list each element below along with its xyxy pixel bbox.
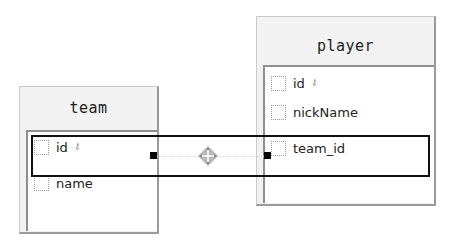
relationship-line-bottom: [31, 175, 430, 177]
column-name: id: [56, 140, 68, 155]
table-title-team: team: [20, 99, 157, 117]
table-title-player: player: [257, 37, 434, 55]
column-name: nickName: [293, 105, 358, 120]
column-checkbox[interactable]: [34, 140, 49, 155]
column-row-player-id[interactable]: id ⚷: [271, 73, 317, 93]
column-row-player-team-id[interactable]: team_id: [271, 138, 345, 158]
column-row-team-id[interactable]: id ⚷: [34, 137, 80, 157]
relationship-handle-team[interactable]: [150, 152, 157, 159]
column-name: team_id: [293, 141, 345, 156]
column-checkbox[interactable]: [34, 176, 49, 191]
column-name: name: [56, 176, 93, 191]
key-icon: ⚷: [74, 141, 81, 151]
relationship-handle-player[interactable]: [264, 152, 271, 159]
column-checkbox[interactable]: [271, 141, 286, 156]
relationship-line-right: [428, 135, 430, 177]
column-name: id: [293, 76, 305, 91]
table-body-team: id ⚷ name: [26, 130, 157, 231]
column-row-player-nickname[interactable]: nickName: [271, 102, 358, 122]
column-checkbox[interactable]: [271, 76, 286, 91]
column-checkbox[interactable]: [271, 105, 286, 120]
table-player[interactable]: player id ⚷ nickName team_id: [256, 16, 436, 206]
key-icon: ⚷: [311, 77, 318, 87]
table-body-player: id ⚷ nickName team_id: [263, 65, 434, 203]
table-team[interactable]: team id ⚷ name: [19, 86, 159, 234]
relationship-line-top: [31, 135, 430, 137]
move-icon[interactable]: [198, 146, 218, 166]
relationship-line-left: [31, 135, 33, 177]
